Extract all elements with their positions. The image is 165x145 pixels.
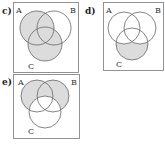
set-a-label: A bbox=[15, 6, 22, 15]
set-b-label: B bbox=[70, 6, 76, 15]
set-c-label: C bbox=[28, 127, 34, 136]
venn-diagram-d: A B C bbox=[103, 2, 164, 71]
set-a-label: A bbox=[17, 78, 24, 87]
set-b-label: B bbox=[155, 6, 161, 15]
diagram-d-label: d) bbox=[85, 6, 96, 16]
set-a-label: A bbox=[105, 6, 112, 15]
set-c-label: C bbox=[28, 62, 34, 71]
set-b-label: B bbox=[71, 78, 77, 87]
venn-diagram-e: A B C bbox=[13, 74, 80, 139]
venn-diagram-c: A B C bbox=[13, 2, 79, 73]
diagram-c-label: c) bbox=[2, 6, 12, 16]
set-c-label: C bbox=[116, 60, 122, 69]
diagram-e-label: e) bbox=[2, 77, 12, 87]
